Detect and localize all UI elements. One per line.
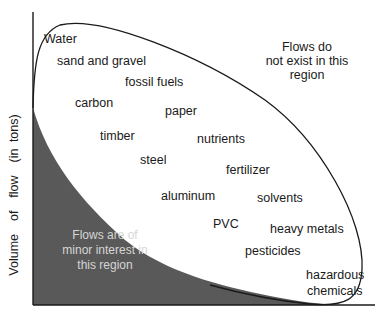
material-label-hazardous: hazardous bbox=[306, 268, 364, 282]
material-label-fertilizer: fertilizer bbox=[226, 163, 270, 177]
material-label-pvc: PVC bbox=[213, 217, 239, 231]
material-label-aluminum: aluminum bbox=[161, 189, 215, 203]
material-label-nutrients: nutrients bbox=[197, 132, 245, 146]
material-label-chemicals: chemicals bbox=[307, 284, 363, 298]
material-label-fossil-fuels: fossil fuels bbox=[125, 75, 183, 89]
material-label-steel: steel bbox=[140, 153, 166, 167]
minor-interest-region bbox=[33, 108, 340, 305]
material-label-heavy-metals: heavy metals bbox=[270, 222, 344, 236]
material-label-water: Water bbox=[44, 32, 77, 46]
minor-interest-region-note: Flows are of minor interest in this regi… bbox=[55, 228, 155, 273]
material-label-solvents: solvents bbox=[257, 191, 303, 205]
material-label-sand-and-gravel: sand and gravel bbox=[57, 54, 146, 68]
material-label-carbon: carbon bbox=[75, 96, 113, 110]
no-flow-region-note: Flows do not exist in this region bbox=[252, 40, 362, 82]
material-label-paper: paper bbox=[165, 104, 197, 118]
y-axis-label: Volume of flow (in tons) bbox=[7, 95, 21, 295]
material-label-pesticides: pesticides bbox=[245, 244, 301, 258]
material-label-timber: timber bbox=[100, 129, 135, 143]
